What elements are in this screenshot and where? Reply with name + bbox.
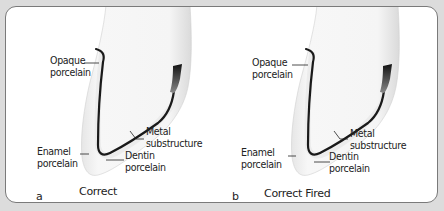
- label-metal-substructure: Metal substructure: [146, 125, 202, 149]
- panel-a: Opaque porcelain Metal substructure Enam…: [6, 7, 222, 202]
- label-enamel-porcelain: Enamel porcelain: [241, 146, 282, 170]
- panel-letter-a: a: [36, 190, 43, 203]
- label-dentin-porcelain: Dentin porcelain: [125, 149, 166, 173]
- label-enamel-porcelain: Enamel porcelain: [37, 145, 78, 169]
- panel-b: Opaque porcelain Metal substructure Enam…: [222, 7, 438, 202]
- label-opaque-porcelain: Opaque porcelain: [252, 56, 293, 80]
- caption-b: Correct Fired: [264, 187, 330, 200]
- caption-a: Correct: [79, 185, 117, 198]
- tooth-crown-diagram-a: [6, 7, 222, 203]
- label-opaque-porcelain: Opaque porcelain: [50, 54, 91, 78]
- panel-letter-b: b: [232, 190, 239, 203]
- label-metal-substructure: Metal substructure: [350, 127, 406, 151]
- label-dentin-porcelain: Dentin porcelain: [329, 150, 370, 174]
- figure-frame: Opaque porcelain Metal substructure Enam…: [5, 6, 438, 203]
